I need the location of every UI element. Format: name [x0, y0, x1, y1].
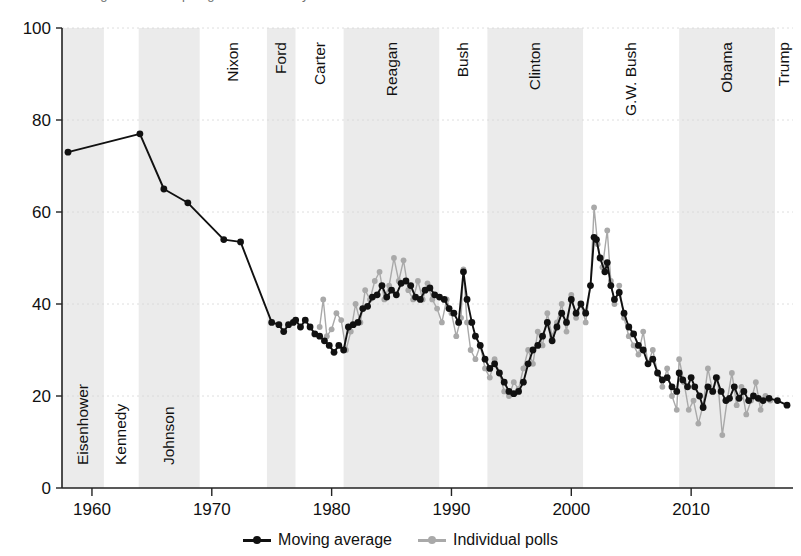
data-point-moving-average: [302, 317, 309, 324]
band-label-clinton: Clinton: [526, 42, 543, 90]
data-point-moving-average: [616, 289, 623, 296]
data-point-moving-average: [407, 282, 414, 289]
data-point-moving-average: [160, 186, 167, 193]
data-point-moving-average: [766, 395, 773, 402]
data-point-moving-average: [472, 333, 479, 340]
legend-swatch-moving-average: [243, 534, 271, 546]
data-point-moving-average: [364, 303, 371, 310]
data-point-individual-polls: [691, 398, 697, 404]
data-point-individual-polls: [564, 329, 570, 335]
data-point-moving-average: [593, 236, 600, 243]
data-point-individual-polls: [616, 283, 622, 289]
x-tick-label-2010: 2010: [672, 500, 710, 519]
data-point-individual-polls: [439, 320, 445, 326]
band-bush: [439, 28, 487, 488]
data-point-moving-average: [525, 360, 532, 367]
data-point-moving-average: [573, 310, 580, 317]
data-point-moving-average: [460, 268, 467, 275]
data-point-moving-average: [649, 356, 656, 363]
data-point-moving-average: [455, 319, 462, 326]
data-point-individual-polls: [377, 269, 383, 275]
band-label-kennedy: Kennedy: [112, 404, 129, 465]
data-point-moving-average: [640, 347, 647, 354]
data-point-moving-average: [684, 383, 691, 390]
data-point-individual-polls: [401, 257, 407, 263]
data-point-individual-polls: [535, 329, 541, 335]
data-point-moving-average: [450, 310, 457, 317]
data-point-individual-polls: [686, 407, 692, 413]
data-point-moving-average: [713, 374, 720, 381]
legend-label-moving-average: Moving average: [278, 531, 392, 549]
chart-canvas: EisenhowerKennedyJohnsonNixonFordCarterR…: [0, 0, 801, 524]
data-point-moving-average: [297, 324, 304, 331]
data-point-moving-average: [726, 395, 733, 402]
x-tick-label-1960: 1960: [73, 500, 111, 519]
data-point-moving-average: [736, 395, 743, 402]
data-point-moving-average: [379, 282, 386, 289]
data-point-moving-average: [520, 379, 527, 386]
data-point-moving-average: [718, 388, 725, 395]
data-point-moving-average: [664, 374, 671, 381]
data-point-moving-average: [292, 317, 299, 324]
band-label-eisenhower: Eisenhower: [74, 384, 91, 465]
data-point-moving-average: [280, 328, 287, 335]
data-point-moving-average: [340, 347, 347, 354]
data-point-individual-polls: [559, 301, 565, 307]
presidential-approval-line-chart: EisenhowerKennedyJohnsonNixonFordCarterR…: [0, 0, 801, 520]
data-point-individual-polls: [636, 352, 642, 358]
data-point-individual-polls: [659, 384, 665, 390]
band-label-ford: Ford: [272, 42, 289, 74]
legend-item-moving-average[interactable]: Moving average: [243, 531, 392, 549]
data-point-moving-average: [464, 296, 471, 303]
data-point-individual-polls: [729, 370, 735, 376]
data-point-individual-polls: [317, 324, 323, 330]
data-point-moving-average: [383, 294, 390, 301]
data-point-moving-average: [539, 333, 546, 340]
data-point-individual-polls: [650, 347, 656, 353]
data-point-moving-average: [534, 342, 541, 349]
data-point-moving-average: [582, 310, 589, 317]
data-point-moving-average: [607, 282, 614, 289]
data-point-moving-average: [784, 402, 791, 409]
data-point-moving-average: [696, 393, 703, 400]
data-point-moving-average: [709, 388, 716, 395]
chart-stage: is this data straight from Gallup Organi…: [0, 0, 801, 556]
legend-item-individual-polls[interactable]: Individual polls: [418, 531, 558, 549]
data-point-moving-average: [515, 388, 522, 395]
band-nixon: [200, 28, 267, 488]
y-tick-label-60: 60: [32, 203, 51, 222]
band-label-reagan: Reagan: [383, 42, 400, 96]
x-tick-label-1980: 1980: [313, 500, 351, 519]
data-point-individual-polls: [487, 375, 493, 381]
data-point-moving-average: [630, 331, 637, 338]
data-point-individual-polls: [743, 412, 749, 418]
band-obama: [679, 28, 775, 488]
x-tick-label-2000: 2000: [552, 500, 590, 519]
band-label-carter: Carter: [311, 42, 328, 85]
data-point-moving-average: [676, 370, 683, 377]
data-point-moving-average: [393, 291, 400, 298]
data-point-moving-average: [558, 310, 565, 317]
data-point-moving-average: [426, 285, 433, 292]
data-point-individual-polls: [705, 366, 711, 372]
y-tick-label-100: 100: [23, 19, 51, 38]
data-point-moving-average: [491, 360, 498, 367]
data-point-moving-average: [184, 199, 191, 206]
data-point-individual-polls: [544, 310, 550, 316]
data-point-moving-average: [237, 239, 244, 246]
data-point-individual-polls: [591, 205, 597, 211]
data-point-moving-average: [563, 319, 570, 326]
data-point-moving-average: [468, 319, 475, 326]
band-label-obama: Obama: [718, 42, 735, 93]
data-point-moving-average: [700, 404, 707, 411]
band-ford: [267, 28, 296, 488]
data-point-moving-average: [355, 319, 362, 326]
data-point-moving-average: [601, 268, 608, 275]
band-label-g-w-bush: G.W. Bush: [622, 42, 639, 116]
data-point-moving-average: [331, 349, 338, 356]
data-point-individual-polls: [434, 306, 440, 312]
data-point-moving-average: [482, 356, 489, 363]
data-point-moving-average: [441, 296, 448, 303]
chart-legend: Moving average Individual polls: [0, 524, 801, 556]
data-point-moving-average: [679, 377, 686, 384]
